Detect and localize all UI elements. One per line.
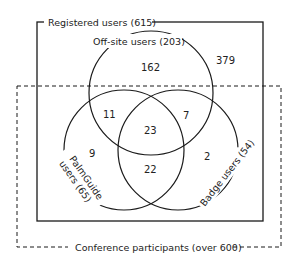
count-badge-only: 2 [204,151,210,162]
conference-participants-label: Conference participants (over 600) [75,242,242,253]
count-palmguide-badge: 22 [144,164,157,175]
count-palmguide-only: 9 [89,148,95,159]
count-offsite-badge: 7 [183,110,189,121]
count-offsite-palmguide: 11 [103,109,116,120]
count-registered-only: 379 [216,55,235,66]
venn-diagram: Registered users (615) Conference partic… [0,0,296,262]
badge-users-label: Badge users (54) [198,137,257,208]
count-offsite-only: 162 [141,62,160,73]
registered-users-label: Registered users (615) [48,17,156,28]
count-all-three: 23 [144,125,157,136]
offsite-users-circle [89,31,213,155]
offsite-users-label: Off-site users (203) [93,36,185,47]
